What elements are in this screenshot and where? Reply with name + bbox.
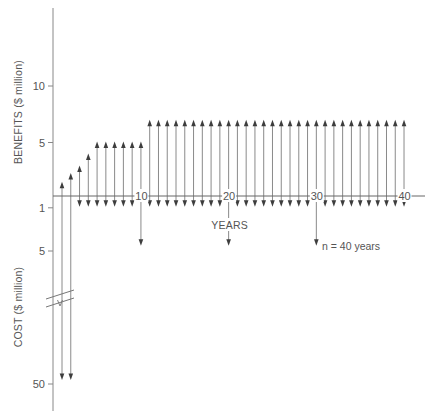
cash-flow-arrow-year-27 <box>288 120 293 207</box>
arrowhead-down-icon <box>296 200 301 207</box>
horizon-annotation: n = 40 years <box>322 240 380 252</box>
cash-flow-arrow-year-1 <box>60 182 65 380</box>
arrowhead-down-icon <box>191 200 196 207</box>
arrowhead-down-icon <box>244 200 249 207</box>
cash-flow-arrow-year-13 <box>165 120 170 207</box>
arrowhead-down-icon <box>393 200 398 207</box>
arrowhead-up-icon <box>130 142 135 149</box>
arrowhead-up-icon <box>191 120 196 127</box>
arrowhead-up-icon <box>139 142 144 149</box>
cash-flow-arrow-year-6 <box>104 142 109 207</box>
arrowhead-up-icon <box>393 120 398 127</box>
labels: 105155010203040YEARSn = 40 yearsBENEFITS… <box>12 60 412 390</box>
arrowhead-down-icon <box>375 200 380 207</box>
cash-flow-arrow-year-36 <box>367 120 372 207</box>
cash-flow-arrow-year-29 <box>305 120 310 207</box>
cash-flow-arrow-year-7 <box>112 142 117 207</box>
arrowhead-up-icon <box>77 165 82 172</box>
cash-flow-arrow-year-22 <box>244 120 249 207</box>
arrowhead-down-icon <box>270 200 275 207</box>
arrowhead-up-icon <box>156 120 161 127</box>
arrowhead-down-icon <box>384 200 389 207</box>
arrowhead-up-icon <box>60 182 65 189</box>
x-tick-label: 40 <box>398 190 410 202</box>
cash-flow-arrow-year-12 <box>156 120 161 207</box>
arrowhead-down-icon <box>139 239 144 246</box>
axes <box>46 8 425 411</box>
cash-flow-arrow-year-26 <box>279 120 284 207</box>
arrowhead-down-icon <box>261 200 266 207</box>
arrowhead-up-icon <box>253 120 258 127</box>
cash-flow-arrow-year-23 <box>253 120 258 207</box>
x-tick-label: 30 <box>311 190 323 202</box>
cash-flow-arrow-year-25 <box>270 120 275 207</box>
cash-flow-arrow-year-34 <box>349 120 354 207</box>
arrowhead-down-icon <box>218 200 223 207</box>
cash-flow-arrow-year-4 <box>86 153 91 206</box>
axis-break-mark <box>46 290 74 299</box>
arrowhead-down-icon <box>121 200 126 207</box>
arrowhead-down-icon <box>340 200 345 207</box>
cash-flow-arrow-year-24 <box>261 120 266 207</box>
cash-flow-arrow-year-28 <box>296 120 301 207</box>
arrowhead-up-icon <box>235 120 240 127</box>
cash-flow-diagram: 105155010203040YEARSn = 40 yearsBENEFITS… <box>0 0 432 417</box>
arrowhead-up-icon <box>402 120 407 127</box>
cash-flow-arrow-year-30 <box>314 120 319 246</box>
cash-flow-arrow-year-2 <box>68 173 73 380</box>
arrowhead-up-icon <box>323 120 328 127</box>
arrowhead-down-icon <box>332 200 337 207</box>
cash-flow-arrow-year-3 <box>77 165 82 206</box>
arrowhead-down-icon <box>104 200 109 207</box>
arrowhead-down-icon <box>77 200 82 207</box>
arrowhead-down-icon <box>200 200 205 207</box>
arrowhead-up-icon <box>95 142 100 149</box>
arrowhead-down-icon <box>60 374 65 381</box>
cash-flow-arrow-year-15 <box>182 120 187 207</box>
arrowhead-up-icon <box>305 120 310 127</box>
cash-flow-arrow-year-38 <box>384 120 389 207</box>
arrowhead-down-icon <box>95 200 100 207</box>
cash-flow-arrow-year-37 <box>375 120 380 207</box>
benefits-axis-title: BENEFITS ($ million) <box>12 60 24 164</box>
cash-flow-arrow-year-5 <box>95 142 100 207</box>
arrowhead-up-icon <box>209 120 214 127</box>
arrowhead-down-icon <box>367 200 372 207</box>
cash-flow-arrow-year-18 <box>209 120 214 207</box>
arrowhead-up-icon <box>112 142 117 149</box>
benefit-tick-label: 5 <box>39 137 45 149</box>
arrowhead-down-icon <box>165 200 170 207</box>
arrowhead-down-icon <box>174 200 179 207</box>
arrowhead-down-icon <box>86 200 91 207</box>
arrowhead-up-icon <box>218 120 223 127</box>
arrowhead-up-icon <box>147 120 152 127</box>
cash-flow-arrow-year-39 <box>393 120 398 207</box>
arrowhead-down-icon <box>314 239 319 246</box>
arrowhead-down-icon <box>182 200 187 207</box>
cost-tick-label: 5 <box>39 245 45 257</box>
arrowhead-up-icon <box>296 120 301 127</box>
arrowhead-down-icon <box>288 200 293 207</box>
arrowhead-up-icon <box>182 120 187 127</box>
cash-flow-arrow-year-16 <box>191 120 196 207</box>
cash-flow-arrow-year-17 <box>200 120 205 207</box>
arrowhead-up-icon <box>165 120 170 127</box>
arrowhead-down-icon <box>253 200 258 207</box>
arrowhead-down-icon <box>358 200 363 207</box>
arrowhead-down-icon <box>226 239 231 246</box>
x-tick-label: 20 <box>223 190 235 202</box>
cost-axis-title: COST ($ million) <box>12 267 24 348</box>
cash-flow-arrow-year-14 <box>174 120 179 207</box>
arrowhead-up-icon <box>358 120 363 127</box>
benefit-tick-label: 10 <box>33 80 45 92</box>
arrowhead-up-icon <box>200 120 205 127</box>
arrowhead-up-icon <box>340 120 345 127</box>
arrowhead-down-icon <box>305 200 310 207</box>
arrowhead-up-icon <box>121 142 126 149</box>
cost-tick-label: 1 <box>39 202 45 214</box>
cash-flow-arrow-year-32 <box>332 120 337 207</box>
cash-flow-arrow-year-35 <box>358 120 363 207</box>
arrowhead-up-icon <box>174 120 179 127</box>
arrowhead-up-icon <box>367 120 372 127</box>
arrowhead-down-icon <box>156 200 161 207</box>
